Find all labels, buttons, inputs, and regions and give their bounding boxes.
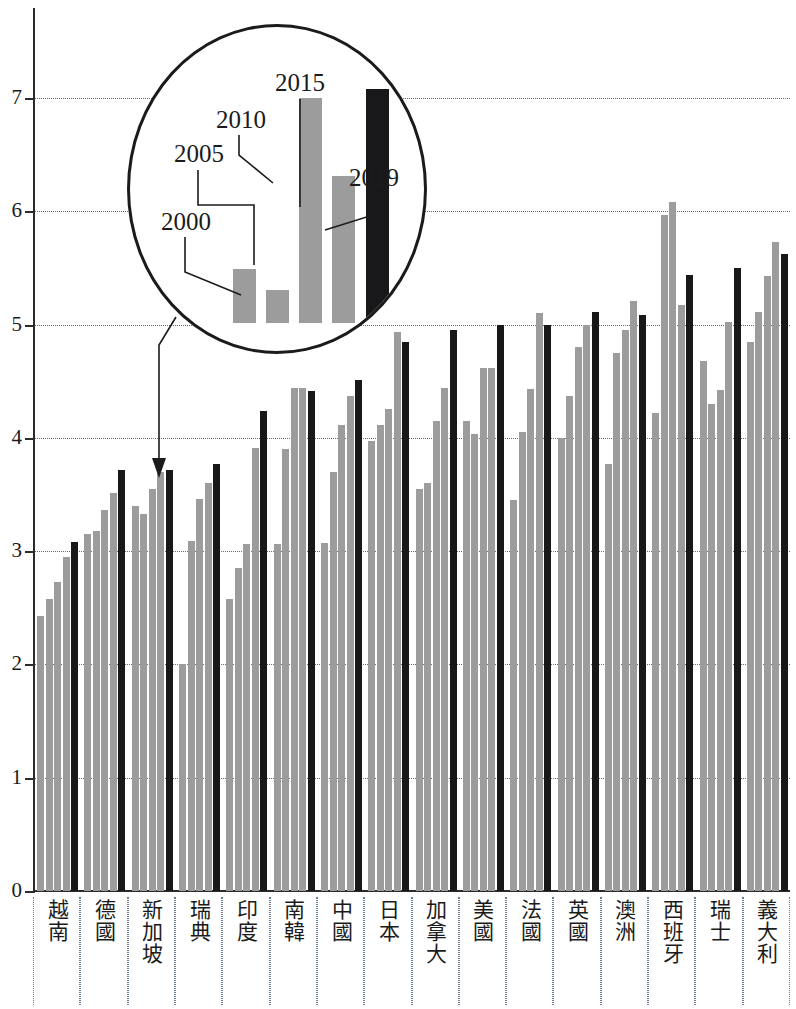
bar [480, 368, 487, 891]
bar [669, 202, 676, 891]
bar [291, 388, 298, 891]
bar [71, 542, 78, 891]
x-axis-label-cell: 澳洲 [601, 897, 648, 1005]
bar [510, 500, 517, 891]
x-axis-label-cell: 瑞典 [175, 897, 222, 1005]
bar [755, 312, 762, 891]
bar [764, 276, 771, 891]
x-axis-label-cell: 瑞士 [695, 897, 742, 1005]
x-axis-label-cell: 德國 [80, 897, 127, 1005]
x-axis-label-cell: 法國 [506, 897, 553, 1005]
x-axis-label-text: 印度 [234, 897, 258, 1005]
bar [157, 472, 164, 891]
bar [188, 541, 195, 891]
bar [235, 568, 242, 891]
bar [441, 388, 448, 891]
bar-group [743, 8, 790, 891]
bar [299, 388, 306, 891]
callout-label-2015: 2015 [275, 70, 325, 95]
bar [205, 483, 212, 891]
bar [402, 342, 409, 892]
x-axis-label-text: 英國 [565, 897, 589, 1005]
bar [260, 411, 267, 891]
y-tick-label-3: 3 [0, 540, 22, 561]
bar [355, 380, 362, 891]
bar-group [695, 8, 742, 891]
bar [274, 544, 281, 891]
bar [394, 332, 401, 891]
bar-group [33, 8, 80, 891]
x-axis-label-cell: 南韓 [270, 897, 317, 1005]
x-axis-label-cell: 英國 [553, 897, 600, 1005]
bar [558, 438, 565, 891]
bar [583, 325, 590, 892]
y-tick-label-1: 1 [0, 767, 22, 788]
bar [282, 449, 289, 891]
bar [747, 342, 754, 892]
x-axis-label-text: 義大利 [754, 897, 778, 1005]
x-axis-label-text: 法國 [518, 897, 542, 1005]
x-axis-label-text: 日本 [376, 897, 400, 1005]
x-axis-label-cell: 美國 [459, 897, 506, 1005]
bar [179, 664, 186, 891]
magnifier-bar [332, 176, 355, 323]
bar [450, 330, 457, 891]
x-axis-label-cell: 義大利 [743, 897, 790, 1005]
bar [605, 464, 612, 891]
bar [63, 557, 70, 891]
x-axis-label-text: 加拿大 [423, 897, 447, 1005]
bar-group [553, 8, 600, 891]
bar [140, 514, 147, 891]
bar [252, 448, 259, 891]
bar [700, 361, 707, 891]
bar [368, 441, 375, 891]
bar [54, 582, 61, 891]
bar [566, 396, 573, 891]
x-axis-label-text: 新加坡 [139, 897, 163, 1005]
bar [330, 472, 337, 891]
bar [463, 421, 470, 891]
x-axis-label-cell: 越南 [33, 897, 80, 1005]
x-axis-label-text: 澳洲 [612, 897, 636, 1005]
bar-group [459, 8, 506, 891]
callout-label-2010: 2010 [216, 107, 266, 132]
bar [686, 275, 693, 891]
bar [132, 506, 139, 891]
bar-group [601, 8, 648, 891]
y-tick-label-4: 4 [0, 427, 22, 448]
bar [196, 499, 203, 891]
bar [308, 391, 315, 891]
bar [93, 531, 100, 891]
bar [385, 409, 392, 891]
x-axis-label-cell: 印度 [222, 897, 269, 1005]
x-axis-label-cell: 新加坡 [128, 897, 175, 1005]
x-axis-label-text: 越南 [45, 897, 69, 1005]
bar [166, 470, 173, 891]
x-axis-label-text: 南韓 [281, 897, 305, 1005]
bar [416, 489, 423, 891]
bar [118, 470, 125, 891]
bar [536, 313, 543, 891]
bar [725, 322, 732, 891]
bar [338, 425, 345, 891]
x-axis-label-text: 西班牙 [660, 897, 684, 1005]
x-axis-label-cell: 西班牙 [648, 897, 695, 1005]
bar [433, 421, 440, 891]
bar [213, 464, 220, 891]
bar-chart-figure: 76543210 越南德國新加坡瑞典印度南韓中國日本加拿大美國法國英國澳洲西班牙… [0, 0, 796, 1009]
bar-group [80, 8, 127, 891]
bar [519, 432, 526, 891]
y-tick-label-5: 5 [0, 314, 22, 335]
bar [613, 353, 620, 891]
y-tick-label-2: 2 [0, 653, 22, 674]
bar [101, 510, 108, 891]
bar [708, 404, 715, 891]
bar [781, 254, 788, 891]
magnifier-bar [233, 269, 256, 323]
magnifier-bar [366, 89, 389, 324]
magnifier-bar [299, 98, 322, 323]
bar [678, 305, 685, 891]
y-tick-label-6: 6 [0, 200, 22, 221]
bar [717, 390, 724, 891]
bar [488, 368, 495, 891]
